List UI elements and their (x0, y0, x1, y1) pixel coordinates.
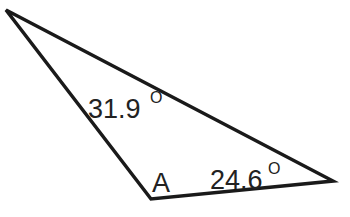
degree-symbol-right: O (268, 160, 280, 177)
angle-label-right: 24.6 (210, 165, 263, 195)
degree-symbol-top-left: O (150, 89, 162, 106)
triangle-diagram: 31.9 O A 24.6 O (0, 0, 350, 217)
angle-label-top-left: 31.9 (88, 94, 141, 124)
vertex-label-a: A (152, 168, 170, 198)
